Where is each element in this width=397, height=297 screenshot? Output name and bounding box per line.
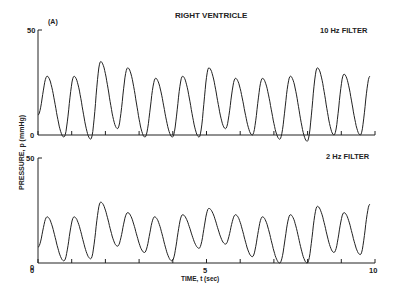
trace-2hz: [38, 202, 370, 263]
x-tick-10: 10: [369, 266, 377, 275]
x-tick-0: 0: [30, 266, 34, 275]
x-axis-label: TIME, t (sec): [181, 275, 219, 283]
bottom-panel-filter-label: 2 Hz FILTER: [326, 152, 370, 161]
top-panel-filter-label: 10 Hz FILTER: [320, 26, 368, 35]
top-y-tick-0: 0: [30, 131, 34, 140]
top-y-tick-50: 50: [27, 26, 35, 35]
y-axis-label: PRESSURE, p (mmHg): [18, 115, 26, 190]
chart: RIGHT VENTRICLE (A) 10 Hz FILTER 2 Hz FI…: [0, 0, 397, 297]
bottom-y-tick-50: 50: [26, 154, 34, 163]
trace-10hz: [38, 62, 370, 142]
chart-title: RIGHT VENTRICLE: [175, 11, 248, 20]
panel-label: (A): [48, 18, 58, 26]
x-tick-5: 5: [203, 266, 207, 275]
bottom-panel-axes: [38, 158, 375, 263]
top-panel-axes: [38, 30, 375, 135]
